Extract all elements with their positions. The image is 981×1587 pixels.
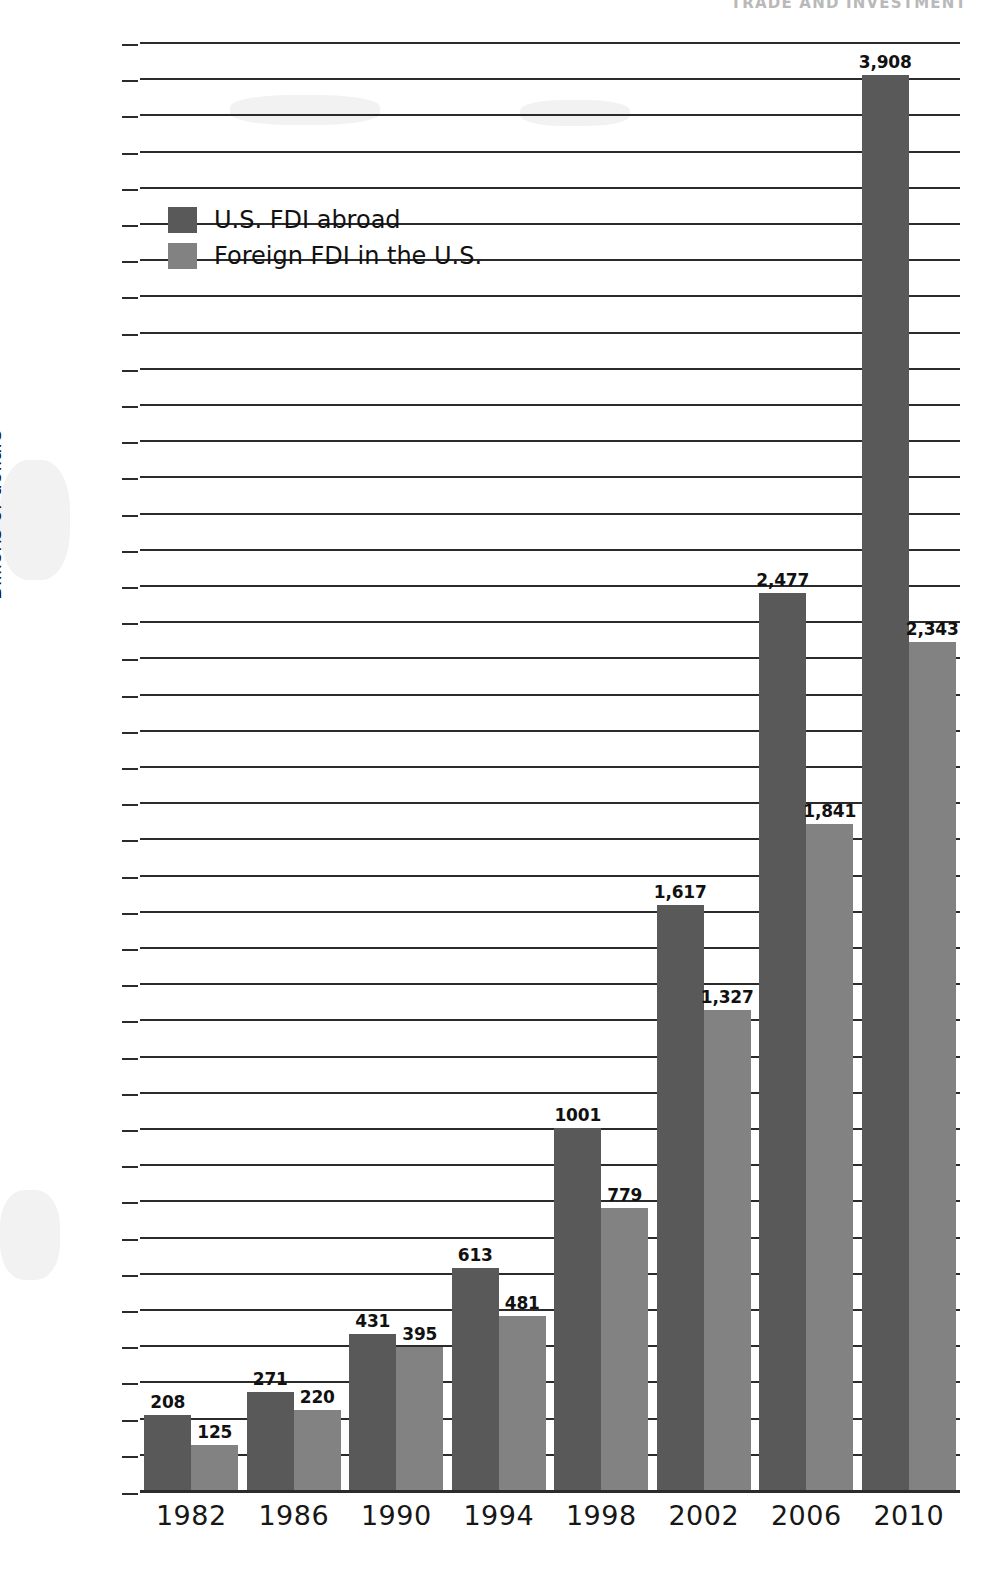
y-tick-mark (122, 1420, 138, 1422)
bar: 613 (452, 1268, 499, 1490)
bar-group: 2,4771,841 (759, 42, 853, 1490)
legend-item: U.S. FDI abroad (168, 203, 482, 237)
bar: 1,617 (657, 905, 704, 1490)
bar: 2,343 (909, 642, 956, 1490)
y-tick-mark (122, 297, 138, 299)
gridline (140, 1490, 960, 1493)
y-tick-mark (122, 189, 138, 191)
y-tick-mark (122, 1021, 138, 1023)
y-axis-title: Billions of dollars (0, 340, 6, 600)
y-tick-mark (122, 225, 138, 227)
y-tick-mark (122, 1347, 138, 1349)
legend-label: U.S. FDI abroad (214, 206, 401, 234)
y-tick-mark (122, 913, 138, 915)
y-tick-mark (122, 949, 138, 951)
bar-value-label: 395 (402, 1324, 437, 1344)
y-tick-mark (122, 1456, 138, 1458)
bar: 208 (144, 1415, 191, 1490)
y-tick-mark (122, 1493, 138, 1495)
y-tick-mark (122, 768, 138, 770)
y-tick-mark (122, 442, 138, 444)
bar-value-label: 1001 (554, 1105, 601, 1125)
y-tick-mark (122, 153, 138, 155)
bar-value-label: 220 (300, 1387, 335, 1407)
bar-value-label: 1,617 (654, 882, 707, 902)
bar: 271 (247, 1392, 294, 1490)
bar: 125 (191, 1445, 238, 1490)
y-tick-mark (122, 1383, 138, 1385)
bar-value-label: 2,477 (756, 570, 809, 590)
bar: 3,908 (862, 75, 909, 1490)
chart-legend: U.S. FDI abroad Foreign FDI in the U.S. (168, 203, 482, 275)
bar: 431 (349, 1334, 396, 1490)
y-tick-mark (122, 1058, 138, 1060)
bar-group: 1001779 (554, 42, 648, 1490)
y-tick-mark (122, 370, 138, 372)
bar: 481 (499, 1316, 546, 1490)
y-tick-mark (122, 80, 138, 82)
bar: 1001 (554, 1128, 601, 1490)
bar: 220 (294, 1410, 341, 1490)
bar-value-label: 1,327 (701, 987, 754, 1007)
y-tick-mark (122, 1166, 138, 1168)
y-tick-mark (122, 1239, 138, 1241)
y-tick-mark (122, 261, 138, 263)
bar-value-label: 779 (607, 1185, 642, 1205)
bar-value-label: 481 (505, 1293, 540, 1313)
bar: 1,841 (806, 824, 853, 1490)
y-tick-mark (122, 877, 138, 879)
bar: 2,477 (759, 593, 806, 1490)
y-tick-mark (122, 840, 138, 842)
legend-label: Foreign FDI in the U.S. (214, 242, 482, 270)
y-tick-mark (122, 623, 138, 625)
y-tick-mark (122, 334, 138, 336)
bar-value-label: 613 (458, 1245, 493, 1265)
y-tick-mark (122, 587, 138, 589)
bar: 1,327 (704, 1010, 751, 1490)
bar: 395 (396, 1347, 443, 1490)
y-tick-mark (122, 406, 138, 408)
y-tick-mark (122, 1275, 138, 1277)
fdi-bar-chart: Billions of dollars 4,0003,9003,8003,700… (0, 0, 981, 1587)
bar-value-label: 2,343 (906, 619, 959, 639)
y-tick-mark (122, 696, 138, 698)
y-tick-mark (122, 732, 138, 734)
y-tick-mark (122, 515, 138, 517)
bar: 779 (601, 1208, 648, 1490)
scan-artifact (0, 460, 70, 580)
bar-value-label: 1,841 (803, 801, 856, 821)
scan-artifact (0, 1190, 60, 1280)
y-tick-mark (122, 44, 138, 46)
bar-value-label: 3,908 (859, 52, 912, 72)
legend-swatch-icon (168, 207, 197, 233)
y-tick-mark (122, 1130, 138, 1132)
bar-value-label: 125 (197, 1422, 232, 1442)
y-tick-mark (122, 551, 138, 553)
y-tick-mark (122, 1094, 138, 1096)
bar-group: 1,6171,327 (657, 42, 751, 1490)
bar-group: 3,9082,343 (862, 42, 956, 1490)
legend-swatch-icon (168, 243, 197, 269)
legend-item: Foreign FDI in the U.S. (168, 239, 482, 273)
bar-value-label: 431 (355, 1311, 390, 1331)
y-tick-mark (122, 804, 138, 806)
y-tick-mark (122, 1202, 138, 1204)
y-tick-mark (122, 116, 138, 118)
bar-value-label: 271 (253, 1369, 288, 1389)
y-tick-mark (122, 985, 138, 987)
x-tick-label: 2010 (829, 1500, 981, 1531)
bar-value-label: 208 (150, 1392, 185, 1412)
y-tick-mark (122, 659, 138, 661)
y-tick-mark (122, 1311, 138, 1313)
y-tick-mark (122, 478, 138, 480)
